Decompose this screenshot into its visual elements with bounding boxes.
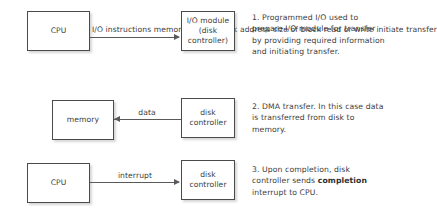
- note-3-text-part2: interrupt to CPU.: [252, 188, 318, 197]
- edge-label-row2: data: [116, 108, 178, 119]
- connector-line-row1: [90, 37, 179, 38]
- box-memory-label: memory: [67, 115, 99, 125]
- note-3-text-bold: completion: [318, 176, 367, 185]
- connector-line-row2: [114, 119, 181, 120]
- edge-label-row3-line1: interrupt: [118, 171, 152, 180]
- note-2: 2. DMA transfer. In this case data is tr…: [252, 101, 386, 135]
- box-io-module: I/O module (disk controller): [181, 11, 235, 51]
- edge-label-row2-line1: data: [138, 108, 156, 117]
- note-1-text: 1. Programmed I/O used to prepare I/O mo…: [252, 13, 385, 56]
- box-io-module-label-line1: I/O module: [182, 16, 234, 26]
- box-disk-controller-row3: disk controller: [181, 160, 235, 200]
- box-disk-controller-row2: disk controller: [181, 98, 235, 138]
- box-disk-controller-row3-label-line1: disk: [189, 170, 226, 180]
- box-cpu-row3: CPU: [27, 163, 90, 203]
- box-cpu-row1: CPU: [27, 11, 90, 51]
- box-memory: memory: [52, 100, 114, 140]
- box-io-module-label-line2: (disk controller): [182, 26, 234, 46]
- edge-label-row1: I/O instructions memory address disk add…: [92, 25, 178, 36]
- edge-label-row1-line1: I/O instructions: [92, 25, 151, 34]
- note-3: 3. Upon completion, disk controller send…: [252, 164, 386, 198]
- box-disk-controller-row2-label-line1: disk: [189, 108, 226, 118]
- box-disk-controller-row2-label-line2: controller: [189, 118, 226, 128]
- connector-line-row3: [90, 182, 179, 183]
- edge-label-row3: interrupt: [92, 171, 178, 182]
- box-cpu-row3-label: CPU: [51, 178, 67, 188]
- box-cpu-row1-label: CPU: [51, 26, 67, 36]
- note-1: 1. Programmed I/O used to prepare I/O mo…: [252, 12, 386, 58]
- note-2-text: 2. DMA transfer. In this case data is tr…: [252, 102, 383, 134]
- box-disk-controller-row3-label-line2: controller: [189, 180, 226, 190]
